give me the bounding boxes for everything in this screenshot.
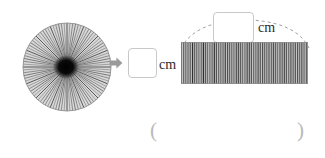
arrow-right-icon — [109, 56, 123, 70]
length-answer-box[interactable] — [213, 12, 254, 43]
worksheet-figure-canvas: cm cm ( ) — [0, 0, 325, 158]
diameter-unit-label: cm — [159, 58, 176, 72]
length-unit-label: cm — [258, 21, 275, 35]
unrolled-strip-icon — [181, 42, 308, 84]
final-answer-open-paren: ( — [150, 120, 157, 141]
coiled-roll-figure — [22, 22, 112, 112]
final-answer-close-paren: ) — [297, 120, 304, 141]
coiled-roll-end-view-icon — [22, 22, 112, 112]
unrolled-strip-figure — [181, 42, 308, 84]
diameter-answer-box[interactable] — [128, 48, 157, 78]
